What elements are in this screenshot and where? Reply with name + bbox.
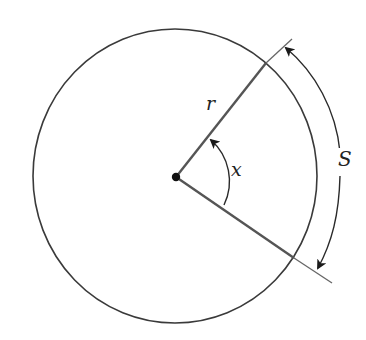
- arc-length-diagram: [0, 0, 366, 340]
- tick-lower: [294, 258, 332, 283]
- radius-lower: [176, 177, 294, 258]
- angle-arc-arrow: [211, 140, 229, 205]
- radius-label: r: [206, 94, 215, 113]
- tick-upper: [266, 39, 292, 63]
- center-point: [172, 173, 180, 181]
- arc-length-label: S: [338, 148, 352, 170]
- radius-upper: [176, 63, 266, 177]
- angle-label: x: [231, 160, 242, 179]
- arc-length-arrow-lower: [318, 176, 340, 268]
- arc-length-arrow-upper: [286, 48, 340, 152]
